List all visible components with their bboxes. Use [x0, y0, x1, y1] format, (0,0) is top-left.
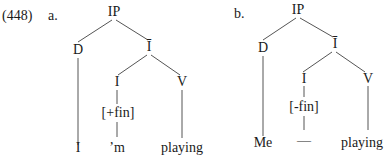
tree-b-node-ibar: Ī [333, 36, 338, 52]
tree-a-feature-fin: [+fin] [102, 105, 135, 121]
tree-b-leaf-empty-aux: — [297, 133, 311, 149]
tree-b-node-v: V [363, 71, 373, 87]
tree-a-leaf-aux: ’m [109, 140, 125, 155]
tree-edges [0, 0, 390, 155]
tree-a-node-ibar: Ī [147, 39, 152, 55]
tree-b-node-i: I [302, 71, 307, 87]
tree-b-label: b. [234, 6, 245, 22]
tree-b-leaf-pronoun: Me [254, 135, 273, 151]
tree-a-leaf-verb: playing [161, 140, 203, 155]
tree-a-node-v: V [177, 74, 187, 90]
tree-b-leaf-verb: playing [341, 135, 383, 151]
tree-b-feature-fin: [-fin] [289, 99, 319, 115]
tree-a-label: a. [48, 8, 58, 24]
tree-b-node-d: D [258, 40, 268, 56]
example-number: (448) [2, 8, 32, 24]
tree-a-node-ip: IP [108, 4, 120, 20]
tree-a-leaf-pronoun: I [76, 140, 81, 155]
tree-a-node-i: I [115, 74, 120, 90]
tree-a-node-d: D [73, 42, 83, 58]
tree-b-node-ip: IP [292, 2, 304, 18]
